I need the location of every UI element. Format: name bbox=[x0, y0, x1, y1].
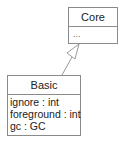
class-basic-name: Basic bbox=[8, 76, 80, 95]
class-basic-attribute-gc: gc : GC bbox=[10, 120, 78, 132]
class-core-attribute: ... bbox=[73, 28, 115, 40]
class-basic[interactable]: Basic ignore : int foreground : int gc :… bbox=[7, 75, 81, 136]
class-basic-attributes: ignore : int foreground : int gc : GC bbox=[8, 95, 80, 133]
class-basic-attribute-ignore: ignore : int bbox=[10, 96, 78, 108]
generalization-arrowhead-icon bbox=[67, 44, 79, 59]
class-core-attributes: ... bbox=[69, 27, 117, 41]
class-basic-attribute-foreground: foreground : int bbox=[10, 108, 78, 120]
class-core-name: Core bbox=[69, 8, 117, 27]
class-core[interactable]: Core ... bbox=[68, 7, 118, 44]
